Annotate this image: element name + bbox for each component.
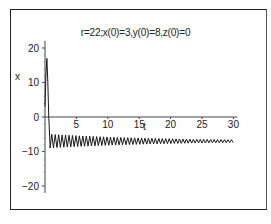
y-tick-label: −20 [22, 181, 39, 192]
data-line-x [45, 58, 233, 148]
x-tick-label: 15 [134, 119, 146, 130]
y-tick-label: −10 [22, 146, 39, 157]
x-tick-label: 10 [102, 119, 114, 130]
axes [42, 41, 237, 193]
y-tick-label: 20 [28, 43, 40, 54]
plot-area: 20100−10−2051015202530 [0, 0, 271, 224]
y-tick-label: 10 [28, 77, 40, 88]
x-tick-label: 30 [228, 119, 240, 130]
x-tick-label: 25 [196, 119, 208, 130]
x-tick-label: 20 [165, 119, 177, 130]
y-tick-label: 0 [33, 112, 39, 123]
x-tick-label: 5 [74, 119, 80, 130]
